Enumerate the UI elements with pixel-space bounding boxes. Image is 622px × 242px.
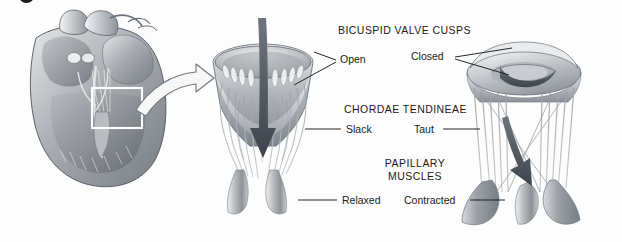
anatomy-figure <box>0 0 622 242</box>
label-papillary-relaxed: Relaxed <box>342 194 381 206</box>
closed-valve-diagram <box>462 42 581 225</box>
heading-papillary-muscles: PAPILLARY MUSCLES <box>374 157 456 182</box>
label-papillary-contracted: Contracted <box>404 194 455 206</box>
open-valve-diagram <box>213 18 313 214</box>
heading-papillary-line2: MUSCLES <box>374 170 456 183</box>
label-cusps-closed: Closed <box>411 50 444 62</box>
label-chordae-slack: Slack <box>346 123 372 135</box>
heading-papillary-line1: PAPILLARY <box>374 157 456 170</box>
label-chordae-taut: Taut <box>414 123 434 135</box>
heading-chordae-tendineae: CHORDAE TENDINEAE <box>344 103 467 115</box>
label-cusps-open: Open <box>340 53 366 65</box>
heading-bicuspid-valve-cusps: BICUSPID VALVE CUSPS <box>338 24 471 36</box>
